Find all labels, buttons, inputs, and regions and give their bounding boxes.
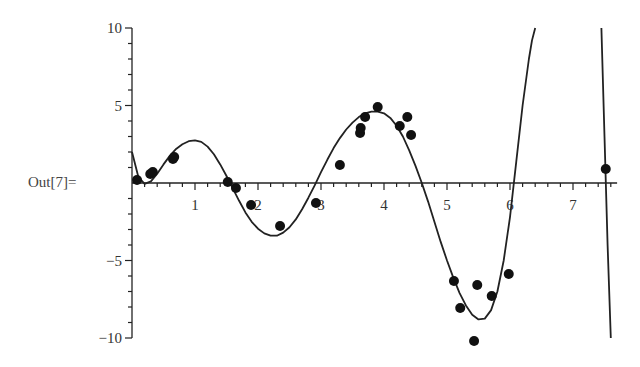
y-tick-label: −10 xyxy=(99,330,122,346)
data-point xyxy=(504,269,514,279)
chart-plot: 105−5−101234567 xyxy=(0,0,640,367)
x-tick-label: 1 xyxy=(191,197,199,213)
data-point xyxy=(335,160,345,170)
data-point xyxy=(148,167,158,177)
data-point xyxy=(373,102,383,112)
x-tick-label: 4 xyxy=(380,197,388,213)
data-point xyxy=(223,177,233,187)
data-point xyxy=(455,303,465,313)
y-tick-label: 5 xyxy=(115,98,123,114)
data-point xyxy=(132,175,142,185)
data-point xyxy=(402,112,412,122)
x-tick-label: 7 xyxy=(569,197,577,213)
fitted-curve xyxy=(132,28,535,319)
data-point xyxy=(246,200,256,210)
data-point xyxy=(360,112,370,122)
data-point xyxy=(601,164,611,174)
y-tick-label: 10 xyxy=(107,20,122,36)
data-point xyxy=(472,280,482,290)
data-point xyxy=(231,183,241,193)
data-point xyxy=(449,276,459,286)
data-point xyxy=(275,221,285,231)
data-point xyxy=(395,121,405,131)
x-tick-label: 5 xyxy=(443,197,451,213)
data-point xyxy=(469,336,479,346)
data-point xyxy=(356,123,366,133)
data-point xyxy=(169,152,179,162)
y-tick-label: −5 xyxy=(106,253,122,269)
data-point xyxy=(487,291,497,301)
data-point xyxy=(311,198,321,208)
data-point xyxy=(406,130,416,140)
